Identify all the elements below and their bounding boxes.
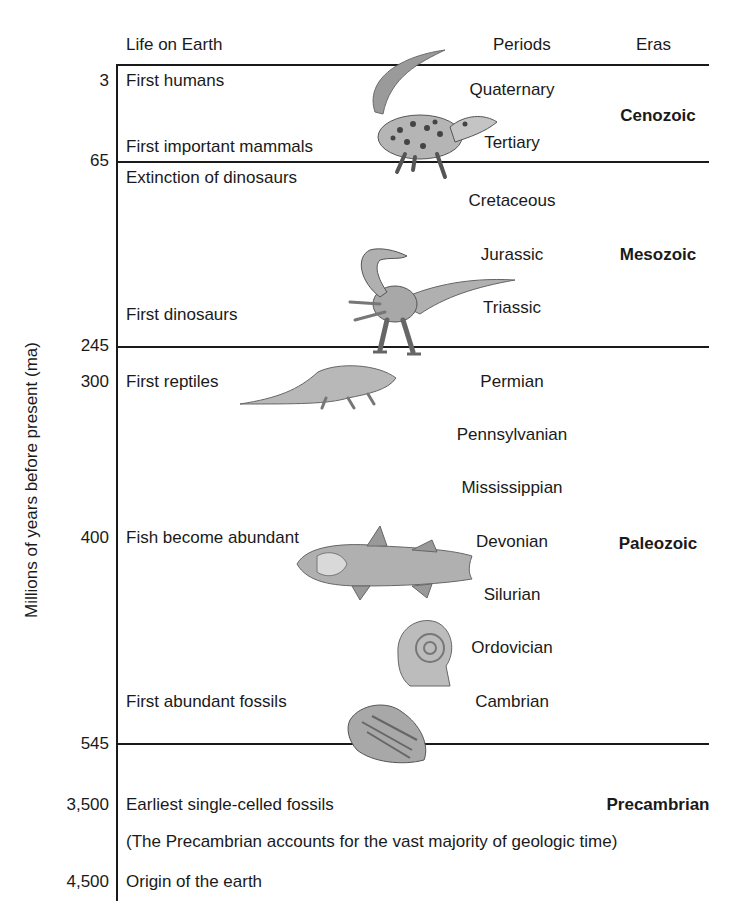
- event-first-reptiles: First reptiles: [126, 372, 219, 392]
- trilobite-illustration: [342, 700, 432, 768]
- y-axis-label: Millions of years before present (ma): [22, 310, 42, 650]
- event-dinosaur-extinction: Extinction of dinosaurs: [126, 168, 297, 188]
- ammonite-illustration: [388, 614, 458, 694]
- event-fish-abundant: Fish become abundant: [126, 528, 299, 548]
- fish-illustration: [292, 524, 478, 600]
- tick-245: 245: [29, 336, 109, 356]
- period-permian: Permian: [422, 372, 602, 392]
- header-eras: Eras: [636, 35, 671, 55]
- event-earliest-single-celled: Earliest single-celled fossils: [126, 795, 334, 815]
- mammal-illustration: [345, 42, 505, 187]
- dinosaur-illustration: [325, 242, 520, 360]
- period-pennsylvanian: Pennsylvanian: [422, 425, 602, 445]
- era-paleozoic: Paleozoic: [598, 534, 718, 554]
- period-mississippian: Mississippian: [422, 478, 602, 498]
- tick-545: 545: [29, 734, 109, 754]
- tick-65: 65: [29, 151, 109, 171]
- precambrian-note: (The Precambrian accounts for the vast m…: [126, 832, 617, 852]
- period-cambrian: Cambrian: [422, 692, 602, 712]
- event-origin-of-earth: Origin of the earth: [126, 872, 262, 892]
- header-life-on-earth: Life on Earth: [126, 35, 222, 55]
- event-first-mammals: First important mammals: [126, 137, 313, 157]
- event-first-humans: First humans: [126, 71, 224, 91]
- era-mesozoic: Mesozoic: [598, 245, 718, 265]
- era-precambrian: Precambrian: [598, 795, 718, 815]
- tick-300: 300: [29, 372, 109, 392]
- event-first-abundant-fossils: First abundant fossils: [126, 692, 287, 712]
- event-first-dinosaurs: First dinosaurs: [126, 305, 237, 325]
- tick-3500: 3,500: [29, 795, 109, 815]
- period-cretaceous: Cretaceous: [422, 191, 602, 211]
- tick-3: 3: [29, 71, 109, 91]
- tick-4500: 4,500: [29, 872, 109, 892]
- time-axis-line: [116, 65, 118, 901]
- era-cenozoic: Cenozoic: [598, 106, 718, 126]
- reptile-illustration: [238, 360, 398, 410]
- tick-400: 400: [29, 528, 109, 548]
